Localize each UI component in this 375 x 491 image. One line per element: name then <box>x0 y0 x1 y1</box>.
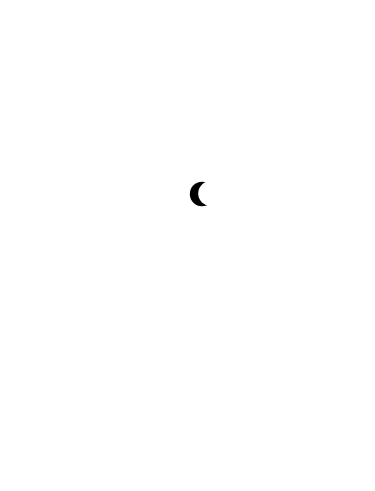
page-background <box>0 0 375 491</box>
document-page: crescent moon <box>0 0 375 491</box>
crescent-moon-icon <box>188 172 216 216</box>
crescent-moon-shape <box>188 172 216 216</box>
